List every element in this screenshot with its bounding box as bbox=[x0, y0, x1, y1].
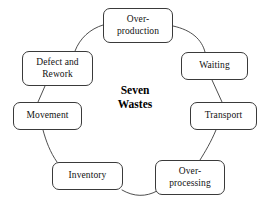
node-over-production-label: Over- production bbox=[115, 14, 161, 37]
node-inventory[interactable]: Inventory bbox=[52, 162, 123, 190]
node-over-processing-label: Over- processing bbox=[167, 166, 213, 189]
connector-movement-defectrework bbox=[38, 86, 45, 102]
node-movement[interactable]: Movement bbox=[13, 102, 82, 130]
node-inventory-label: Inventory bbox=[67, 170, 109, 182]
node-transport[interactable]: Transport bbox=[190, 102, 257, 130]
connector-overprocessing-inventory bbox=[122, 190, 157, 195]
connector-waiting-transport bbox=[212, 80, 222, 102]
seven-wastes-diagram: Over- production Waiting Transport Over-… bbox=[0, 0, 270, 200]
connector-transport-overprocessing bbox=[200, 130, 216, 160]
node-defect-and-rework[interactable]: Defect and Rework bbox=[22, 51, 93, 86]
node-defect-and-rework-label: Defect and Rework bbox=[34, 57, 80, 80]
connector-overproduction-waiting bbox=[173, 26, 205, 52]
connector-defectrework-overproduction bbox=[75, 25, 103, 51]
node-movement-label: Movement bbox=[25, 110, 71, 122]
node-over-processing[interactable]: Over- processing bbox=[155, 160, 225, 195]
node-transport-label: Transport bbox=[203, 110, 245, 122]
node-waiting[interactable]: Waiting bbox=[181, 52, 248, 80]
node-over-production[interactable]: Over- production bbox=[103, 8, 173, 43]
connector-inventory-movement bbox=[43, 130, 57, 162]
node-waiting-label: Waiting bbox=[197, 60, 232, 72]
diagram-center-title: Seven Wastes bbox=[96, 83, 174, 111]
